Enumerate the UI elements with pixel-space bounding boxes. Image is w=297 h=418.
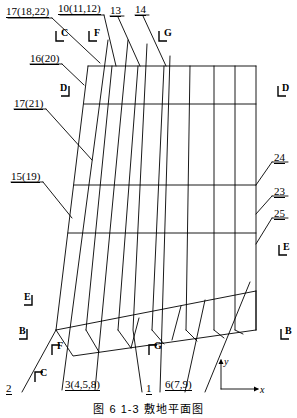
callout-2: 2: [6, 383, 12, 395]
figure-canvas: 17(18,22) 10(11,12) 13 14 16(20) 17(21) …: [0, 0, 297, 418]
section-marker-D-right: D: [282, 83, 289, 93]
section-marker-E-right: E: [283, 242, 290, 252]
section-marker-C-bottom: C: [40, 368, 47, 378]
section-marker-E-left: E: [24, 292, 31, 302]
strip-upper-edge: [56, 291, 256, 330]
section-marker-B-right: B: [285, 326, 292, 336]
axis-x-label: x: [260, 384, 264, 395]
grid-group: [8, 15, 288, 392]
section-marker-G-top: G: [164, 28, 172, 38]
leader-15-19: [43, 182, 72, 218]
callout-16-20: 16(20): [30, 53, 59, 65]
axis-y-label: y: [224, 356, 228, 367]
callout-6-7-9: 6(7,9): [165, 379, 192, 391]
col-3: [152, 66, 164, 330]
strip-div-5: [214, 330, 224, 338]
stringer-c: [133, 44, 147, 392]
col-left-edge: [56, 66, 88, 330]
figure-caption: 图 6 1-3 敷地平面图: [0, 400, 297, 416]
section-marker-C-top: C: [61, 28, 68, 38]
callout-23: 23: [274, 186, 285, 198]
section-marker-B-left: B: [19, 326, 26, 336]
strip-div-2: [118, 330, 131, 348]
callout-15-19: 15(19): [11, 171, 40, 183]
axis-y-arrow: [219, 359, 224, 364]
axis-x-arrow: [254, 387, 259, 392]
callout-13: 13: [110, 5, 121, 17]
leader-17-21: [46, 109, 92, 160]
callout-24: 24: [274, 152, 285, 164]
section-marker-F-bottom: F: [57, 341, 63, 351]
callout-25: 25: [274, 208, 285, 220]
col-4: [186, 66, 190, 330]
callout-17-21: 17(21): [14, 98, 43, 110]
section-marker-G-bottom: G: [154, 341, 162, 351]
leader-24: [256, 162, 272, 185]
callout-10-11-12: 10(11,12): [58, 3, 101, 15]
callout-14: 14: [135, 4, 146, 16]
leader-25: [256, 218, 272, 244]
callout-3-4-5-8: 3(4,5,8): [65, 379, 100, 391]
leader-23: [256, 196, 272, 214]
strip-diag-2: [172, 306, 181, 340]
strip-div-1: [86, 330, 99, 352]
section-marker-F-top: F: [94, 28, 100, 38]
section-marker-D-left: D: [60, 83, 67, 93]
callout-1: 1: [146, 383, 152, 395]
leader-13: [118, 17, 140, 66]
stringer-f: [205, 282, 250, 392]
stringer-left-skirt: [22, 330, 56, 392]
callout-17-18-22: 17(18,22): [6, 6, 49, 18]
